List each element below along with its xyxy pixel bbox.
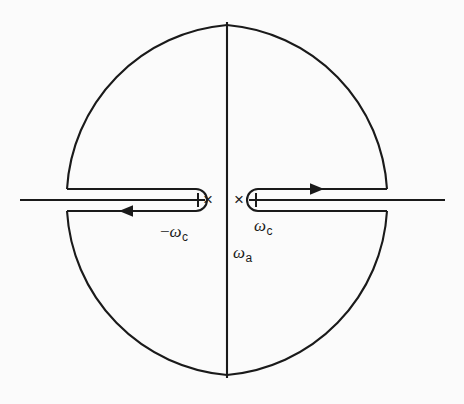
left-direction-arrowhead	[119, 205, 133, 217]
omega-symbol: ω	[233, 243, 245, 262]
omega-subscript: a	[246, 251, 253, 265]
minus-sign: −	[160, 222, 170, 241]
label-negative-omega-c: −ωc	[160, 222, 188, 244]
omega-subscript: c	[182, 230, 188, 244]
label-omega-c: ωc	[254, 216, 273, 238]
label-omega-a: ωa	[233, 243, 252, 265]
outer-circle-arc-lower-right	[227, 211, 387, 375]
omega-symbol: ω	[254, 216, 266, 235]
outer-circle-arc-lower-left	[67, 211, 227, 375]
pole-marker-right: ×	[234, 190, 244, 210]
right-direction-arrowhead	[310, 183, 324, 195]
outer-circle-arc-upper-right	[227, 25, 387, 189]
omega-subscript: c	[267, 224, 273, 238]
contour-diagram-figure: × × −ωc ωc ωa	[0, 0, 464, 404]
outer-circle-arc-upper-left	[67, 25, 227, 189]
pole-marker-left: ×	[203, 190, 213, 210]
contour-diagram-svg	[0, 0, 464, 404]
omega-symbol: ω	[170, 222, 182, 241]
